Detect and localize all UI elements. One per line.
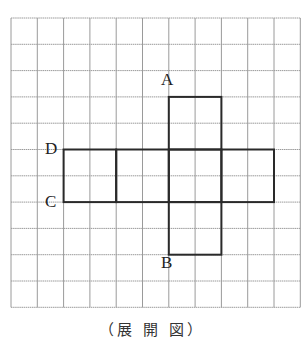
point-label-a: A [161,71,173,88]
caption: （展 開 図） [0,318,304,339]
point-label-c: C [45,193,56,210]
grid [11,18,300,307]
point-label-d: D [45,140,57,157]
net-diagram [0,0,304,347]
point-label-b: B [161,254,172,271]
